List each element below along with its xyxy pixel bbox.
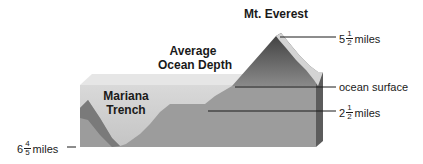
average-depth-den: 2 xyxy=(347,113,351,121)
trench-depth-fraction: 4 5 xyxy=(24,140,30,157)
average-depth-fraction: 1 2 xyxy=(346,104,352,121)
average-depth-label-line2: Ocean Depth xyxy=(158,58,228,72)
everest-height-fraction: 1 2 xyxy=(346,30,352,47)
mt-everest xyxy=(232,33,318,86)
trench-depth-unit: miles xyxy=(33,143,59,155)
trench-depth-measure: 6 4 5 miles xyxy=(17,140,58,157)
ocean-surface-label: ocean surface xyxy=(339,81,408,93)
mariana-trench-label: Mariana Trench xyxy=(100,89,152,117)
mariana-trench-label-line2: Trench xyxy=(100,103,152,117)
everest-label: Mt. Everest xyxy=(244,7,308,21)
average-depth-label-line1: Average xyxy=(158,44,228,58)
average-depth-label: Average Ocean Depth xyxy=(158,44,228,72)
trench-depth-whole: 6 xyxy=(17,143,23,155)
trench-depth-den: 5 xyxy=(25,149,29,157)
average-depth-measure: 2 1 2 miles xyxy=(339,104,380,121)
everest-height-whole: 5 xyxy=(339,33,345,45)
mariana-trench-label-line1: Mariana xyxy=(100,89,152,103)
everest-height-unit: miles xyxy=(355,33,381,45)
everest-height-den: 2 xyxy=(347,39,351,47)
block-top-face xyxy=(80,74,250,85)
average-depth-whole: 2 xyxy=(339,107,345,119)
everest-height-measure: 5 1 2 miles xyxy=(339,30,380,47)
average-depth-unit: miles xyxy=(355,107,381,119)
